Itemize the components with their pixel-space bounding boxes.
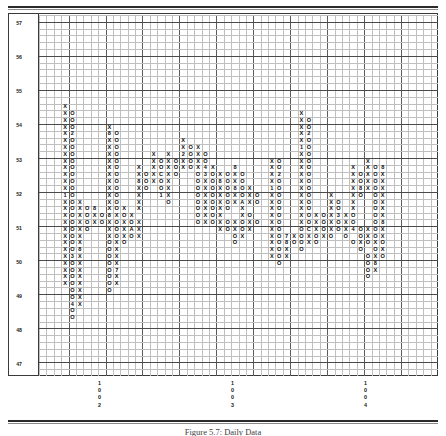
plot-mark-o: O bbox=[290, 239, 297, 246]
plot-mark-o: O bbox=[357, 226, 364, 233]
plot-mark-month: 8 bbox=[106, 130, 113, 137]
plot-mark-x: X bbox=[268, 199, 275, 206]
plot-mark-month: 3 bbox=[335, 212, 342, 219]
plot-mark-x: X bbox=[268, 253, 275, 260]
plot-mark-x: X bbox=[120, 219, 127, 226]
point-and-figure-grid[interactable]: XXOXOXOXX28OXOXOXXOXOXOXXOXOXX2OXOXOXOXO… bbox=[39, 15, 438, 376]
plot-mark-o: O bbox=[305, 212, 312, 219]
plot-mark-x: X bbox=[106, 124, 113, 131]
plot-mark-x: X bbox=[61, 233, 68, 240]
plot-mark-o: O bbox=[275, 199, 282, 206]
plot-mark-o: O bbox=[194, 178, 201, 185]
plot-mark-o: O bbox=[335, 205, 342, 212]
plot-mark-x: X bbox=[113, 253, 120, 260]
plot-mark-o: O bbox=[187, 164, 194, 171]
plot-mark-o: O bbox=[187, 151, 194, 158]
plot-mark-x: X bbox=[106, 226, 113, 233]
plot-mark-o: O bbox=[275, 253, 282, 260]
plot-mark-x: X bbox=[349, 192, 356, 199]
plot-mark-o: O bbox=[194, 171, 201, 178]
plot-mark-x: X bbox=[298, 110, 305, 117]
grid-line-horizontal bbox=[39, 22, 438, 23]
plot-mark-o: O bbox=[209, 192, 216, 199]
plot-mark-x: X bbox=[135, 171, 142, 178]
plot-mark-o: O bbox=[305, 117, 312, 124]
plot-mark-x: X bbox=[239, 233, 246, 240]
plot-mark-x: X bbox=[379, 246, 386, 253]
plot-mark-x: X bbox=[298, 158, 305, 165]
plot-mark-x: X bbox=[349, 205, 356, 212]
plot-mark-x: X bbox=[305, 239, 312, 246]
plot-mark-o: O bbox=[209, 171, 216, 178]
plot-mark-x: X bbox=[194, 151, 201, 158]
plot-mark-x: X bbox=[150, 178, 157, 185]
plot-mark-o: O bbox=[69, 137, 76, 144]
plot-mark-x: X bbox=[61, 178, 68, 185]
y-axis-tick-label: 49 bbox=[8, 293, 30, 299]
plot-mark-month: 8 bbox=[216, 178, 223, 185]
plot-mark-x: X bbox=[342, 212, 349, 219]
grid-line-horizontal bbox=[39, 117, 438, 118]
plot-mark-o: O bbox=[194, 185, 201, 192]
plot-mark-x: X bbox=[216, 199, 223, 206]
plot-mark-x: X bbox=[379, 205, 386, 212]
grid-line-horizontal bbox=[39, 124, 438, 125]
plot-mark-x: X bbox=[379, 178, 386, 185]
plot-mark-x: X bbox=[61, 171, 68, 178]
plot-mark-o: O bbox=[69, 144, 76, 151]
plot-mark-o: O bbox=[364, 260, 371, 267]
plot-mark-o: O bbox=[98, 219, 105, 226]
plot-mark-x: X bbox=[268, 226, 275, 233]
plot-mark-o: O bbox=[224, 226, 231, 233]
plot-mark-x: X bbox=[357, 239, 364, 246]
plot-mark-x: X bbox=[268, 239, 275, 246]
y-axis-tick-label: 48 bbox=[8, 327, 30, 333]
plot-mark-x: X bbox=[202, 205, 209, 212]
plot-mark-x: X bbox=[106, 192, 113, 199]
y-axis-tick-label: 57 bbox=[8, 20, 30, 26]
plot-mark-o: O bbox=[106, 287, 113, 294]
plot-mark-x: X bbox=[113, 280, 120, 287]
plot-mark-o: O bbox=[106, 260, 113, 267]
plot-mark-x: X bbox=[349, 178, 356, 185]
plot-mark-month: 8 bbox=[379, 164, 386, 171]
plot-mark-o: O bbox=[253, 219, 260, 226]
plot-mark-o: O bbox=[305, 164, 312, 171]
plot-mark-x: X bbox=[120, 233, 127, 240]
grid-line-horizontal bbox=[39, 90, 438, 91]
grid-line-horizontal bbox=[39, 144, 438, 145]
plot-mark-x: X bbox=[349, 199, 356, 206]
plot-mark-month: 4 bbox=[349, 226, 356, 233]
grid-line-horizontal bbox=[39, 369, 438, 370]
grid-line-horizontal bbox=[39, 328, 438, 329]
plot-mark-o: O bbox=[187, 144, 194, 151]
plot-mark-x: X bbox=[379, 226, 386, 233]
plot-mark-x: X bbox=[76, 239, 83, 246]
plot-mark-x: X bbox=[268, 178, 275, 185]
plot-mark-o: O bbox=[372, 205, 379, 212]
plot-mark-o: O bbox=[364, 273, 371, 280]
y-axis-tick-label: 56 bbox=[8, 54, 30, 60]
y-axis-tick-label: 53 bbox=[8, 157, 30, 163]
plot-mark-o: O bbox=[224, 219, 231, 226]
plot-mark-month: 1 bbox=[61, 192, 68, 199]
plot-mark-x: X bbox=[239, 205, 246, 212]
plot-mark-x: X bbox=[246, 219, 253, 226]
plot-mark-o: O bbox=[305, 178, 312, 185]
plot-mark-o: O bbox=[69, 314, 76, 321]
grid-line-horizontal bbox=[39, 35, 438, 36]
plot-mark-x: X bbox=[312, 212, 319, 219]
plot-mark-x: X bbox=[349, 164, 356, 171]
figure-page: XXOXOXOXX28OXOXOXXOXOXOXXOXOXX2OXOXOXOXO… bbox=[0, 0, 446, 436]
plot-mark-o: O bbox=[209, 219, 216, 226]
plot-mark-o: O bbox=[275, 233, 282, 240]
plot-mark-month: A bbox=[239, 199, 246, 206]
plot-mark-o: O bbox=[69, 178, 76, 185]
plot-mark-x: X bbox=[106, 171, 113, 178]
plot-mark-x: X bbox=[61, 239, 68, 246]
plot-mark-x: X bbox=[327, 192, 334, 199]
grid-line-horizontal bbox=[39, 281, 438, 282]
plot-mark-x: X bbox=[298, 192, 305, 199]
x-axis-tick-label: 1002 bbox=[95, 380, 105, 409]
plot-mark-o: O bbox=[194, 192, 201, 199]
